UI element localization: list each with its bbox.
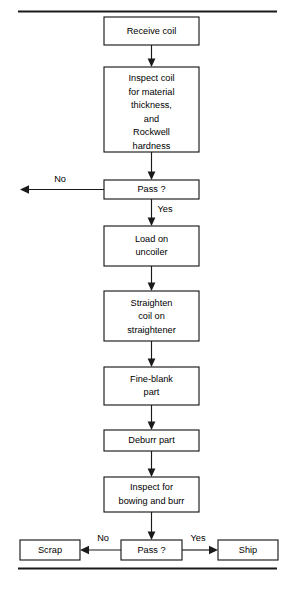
node-deburr-part-label: Deburr part: [128, 435, 175, 445]
node-fine-blank-part-label-line1: Fine-blank: [130, 374, 173, 384]
node-deburr-part[interactable]: Deburr part: [104, 430, 199, 451]
node-load-on-uncoiler-label-line1: Load on: [135, 234, 168, 244]
node-load-on-uncoiler[interactable]: Load on uncoiler: [104, 226, 199, 266]
node-inspect-coil-label-line3: thickness,: [131, 100, 172, 110]
node-inspect-bowing-burr-label-line2: bowing and burr: [119, 496, 185, 506]
edge-label-yes-2: Yes: [191, 533, 206, 543]
edge-receive-to-inspect: [148, 45, 156, 67]
edge-load-to-straighten: [148, 266, 156, 291]
node-straighten-coil-label-line2: coil on: [138, 311, 165, 321]
arrowhead-icon: [80, 546, 89, 554]
node-inspect-coil-label-line6: hardness: [133, 141, 171, 151]
arrowhead-icon: [148, 532, 156, 541]
node-fine-blank-part[interactable]: Fine-blank part: [104, 367, 199, 405]
node-pass-2-label: Pass ?: [137, 545, 165, 555]
node-load-on-uncoiler-box[interactable]: [104, 226, 199, 266]
node-ship-label: Ship: [239, 545, 257, 555]
node-fine-blank-part-label-line2: part: [144, 387, 160, 397]
node-straighten-coil-label-line1: Straighten: [131, 298, 173, 308]
node-inspect-bowing-burr-label-line1: Inspect for: [130, 482, 173, 492]
node-inspect-coil[interactable]: Inspect coil for material thickness, and…: [104, 67, 199, 152]
flowchart-canvas: Receive coil Inspect coil for material t…: [0, 0, 294, 591]
node-straighten-coil[interactable]: Straighten coil on straightener: [104, 291, 199, 341]
node-pass-2[interactable]: Pass ?: [121, 540, 182, 560]
node-ship[interactable]: Ship: [218, 540, 278, 560]
edge-fineblank-to-deburr: [148, 405, 156, 430]
arrowhead-icon: [148, 359, 156, 368]
node-receive-coil[interactable]: Receive coil: [104, 17, 199, 45]
node-pass-1-label: Pass ?: [137, 184, 165, 194]
node-straighten-coil-label-line3: straightener: [127, 325, 176, 335]
edge-label-no-1: No: [54, 174, 66, 184]
arrowhead-icon: [148, 283, 156, 292]
arrowhead-icon: [148, 218, 156, 227]
node-inspect-coil-label-line5: Rockwell: [133, 127, 170, 137]
node-fine-blank-part-box[interactable]: [104, 367, 199, 405]
arrowhead-icon: [148, 172, 156, 181]
edge-inspect2-to-pass2: [148, 512, 156, 540]
edge-pass2-no: [80, 546, 121, 554]
node-load-on-uncoiler-label-line2: uncoiler: [135, 247, 167, 257]
node-inspect-coil-label-line2: for material: [129, 87, 175, 97]
arrowhead-icon: [148, 469, 156, 478]
node-inspect-coil-label-line1: Inspect coil: [129, 73, 175, 83]
edge-label-yes-1: Yes: [158, 204, 173, 214]
node-scrap[interactable]: Scrap: [20, 540, 80, 560]
edge-inspect-to-pass1: [148, 152, 156, 180]
node-scrap-label: Scrap: [38, 545, 62, 555]
node-receive-coil-label: Receive coil: [127, 26, 177, 36]
node-inspect-coil-label-line4: and: [144, 114, 159, 124]
node-inspect-bowing-burr[interactable]: Inspect for bowing and burr: [104, 477, 199, 512]
arrowhead-icon: [209, 546, 218, 554]
arrowhead-icon: [148, 59, 156, 68]
flowchart-svg: Receive coil Inspect coil for material t…: [0, 0, 294, 591]
edge-pass1-no: [20, 185, 104, 193]
edge-pass2-yes: [182, 546, 218, 554]
edge-deburr-to-inspect2: [148, 451, 156, 477]
edge-pass1-yes: [148, 199, 156, 226]
arrowhead-icon: [20, 185, 29, 193]
node-pass-1[interactable]: Pass ?: [104, 180, 199, 199]
edge-label-no-2: No: [97, 533, 109, 543]
arrowhead-icon: [148, 422, 156, 431]
edge-straighten-to-fineblank: [148, 341, 156, 367]
